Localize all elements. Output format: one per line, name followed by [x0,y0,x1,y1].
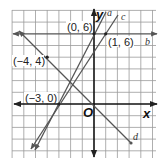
line-a-label: a [107,7,112,18]
point-neg3-0 [57,102,60,105]
line-c-label: c [121,11,126,22]
point-1-6 [104,32,107,35]
label-point-neg3-0: (−3, 0) [25,92,57,104]
label-point-neg4-4: (−4, 4) [13,55,45,67]
point-neg4-4 [46,56,49,59]
point-0-6 [92,32,95,35]
label-point-0-6: (0, 6) [67,21,93,33]
y-axis-label: y [95,7,104,22]
line-b-label: b [145,36,150,47]
line-d-label: d [133,131,139,142]
x-axis-label: x [142,106,151,121]
label-point-1-6: (1, 6) [108,36,134,48]
coordinate-graph: (0, 6) (1, 6) (−4, 4) (−3, 0) x y O a b … [0,0,164,168]
origin-label: O [83,105,93,120]
